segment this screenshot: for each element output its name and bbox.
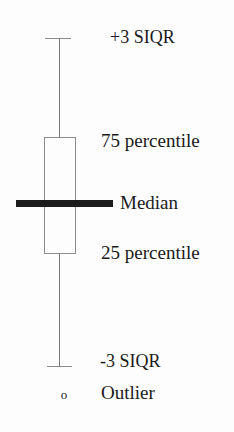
boxplot-figure: o +3 SIQR 75 percentile Median 25 percen… [0, 0, 234, 432]
label-percentile-75: 75 percentile [101, 130, 200, 152]
upper-whisker-cap [45, 38, 71, 39]
interquartile-range-box [44, 137, 76, 254]
median-bar [16, 200, 113, 207]
outlier-circle-icon: o [56, 386, 72, 404]
upper-whisker-line [59, 38, 60, 138]
label-outlier: Outlier [101, 382, 155, 404]
label-percentile-25: 25 percentile [101, 242, 200, 264]
lower-whisker-cap [47, 366, 72, 367]
label-lower-fence: -3 SIQR [100, 350, 161, 372]
label-median: Median [120, 192, 178, 214]
label-upper-fence: +3 SIQR [110, 26, 175, 48]
lower-whisker-line [59, 253, 60, 366]
